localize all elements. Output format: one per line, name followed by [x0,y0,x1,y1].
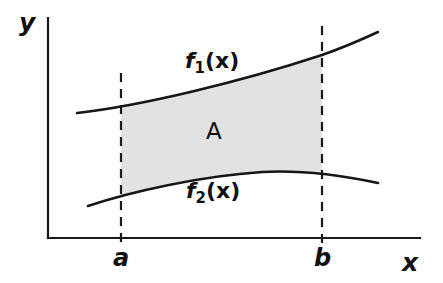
curve-label-f1-argument: (x) [205,48,239,73]
tick-label-a: a [113,246,129,270]
tick-label-b: b [314,246,331,270]
curve-label-f1-base: f [185,48,195,73]
curve-label-f2-subscript: 2 [196,189,206,207]
curve-label-f2-base: f [186,178,196,203]
region-label-A: A [206,120,222,143]
y-axis-label: y [19,10,35,35]
curve-label-f2-argument: (x) [206,178,240,203]
x-axis-label: x [402,250,418,275]
curve-label-f1-subscript: 1 [195,59,205,77]
curve-label-f1: f1(x) [185,50,239,76]
area-between-curves-figure: y x a b f1(x) f2(x) A [0,0,443,283]
curve-label-f2: f2(x) [186,180,240,206]
